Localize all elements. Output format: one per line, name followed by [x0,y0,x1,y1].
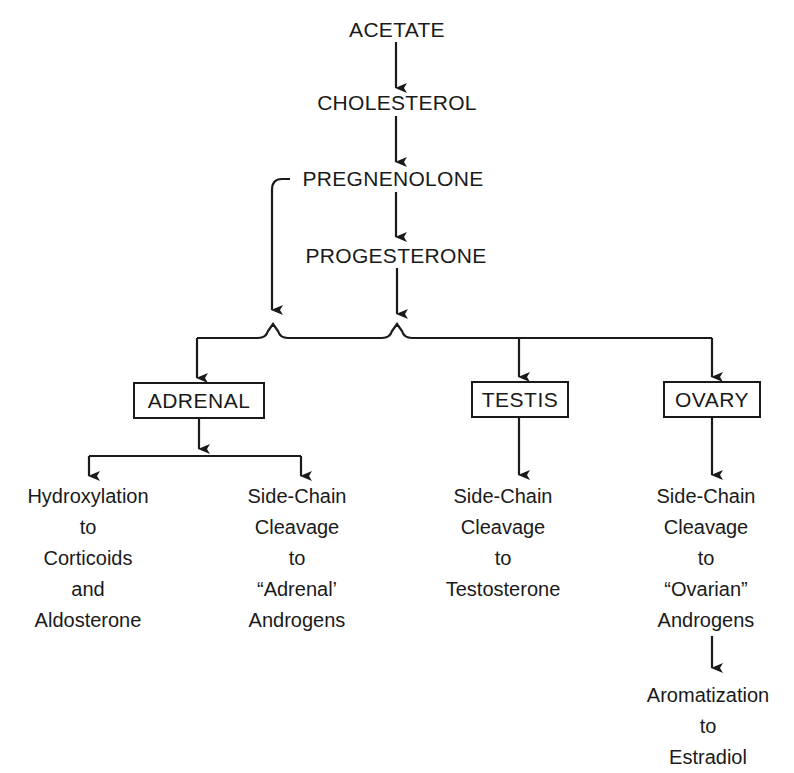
outcome-line: to [27,512,148,543]
distribution-bracket [197,324,712,338]
outcome-line: Corticoids [27,543,148,574]
outcome-line: Hydroxylation [27,481,148,512]
outcome-line: Cleavage [446,512,561,543]
outcome-line: “Ovarian” [657,574,756,605]
node-ovary-box: OVARY [663,381,761,418]
node-testis-box: TESTIS [471,381,569,418]
node-acetate: ACETATE [349,18,445,42]
node-pregnenolone: PREGNENOLONE [303,167,484,191]
outcome-adrenal-hydroxylation: Hydroxylation to Corticoids and Aldoster… [27,481,148,636]
node-cholesterol: CHOLESTEROL [317,91,477,115]
outcome-line: Cleavage [657,512,756,543]
outcome-line: and [27,574,148,605]
arrow-pregnenolone-bracket [272,179,290,310]
outcome-line: Androgens [248,605,347,636]
node-adrenal-box: ADRENAL [133,382,265,419]
outcome-ovary-sidechain: Side-Chain Cleavage to “Ovarian” Androge… [657,481,756,636]
outcome-adrenal-sidechain: Side-Chain Cleavage to “Adrenal’ Androge… [248,481,347,636]
outcome-testis-sidechain: Side-Chain Cleavage to Testosterone [446,481,561,605]
outcome-line: Androgens [657,605,756,636]
outcome-line: to [446,543,561,574]
outcome-line: Side-Chain [446,481,561,512]
outcome-line: Aromatization [647,680,769,711]
outcome-line: Testosterone [446,574,561,605]
outcome-line: Side-Chain [248,481,347,512]
outcome-line: Estradiol [647,742,769,773]
outcome-line: Side-Chain [657,481,756,512]
outcome-line: to [647,711,769,742]
node-progesterone: PROGESTERONE [306,244,487,268]
outcome-line: Aldosterone [27,605,148,636]
outcome-line: “Adrenal’ [248,574,347,605]
outcome-line: Cleavage [248,512,347,543]
outcome-ovary-aromatization: Aromatization to Estradiol [647,680,769,773]
outcome-line: to [657,543,756,574]
outcome-line: to [248,543,347,574]
